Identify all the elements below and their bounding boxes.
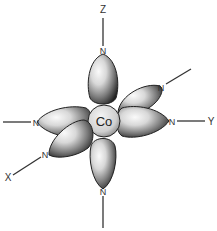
octahedral-complex-diagram: Z Y X N N N N N N Co (0, 0, 217, 231)
center-atom-label: Co (96, 114, 113, 129)
x-axis-line (13, 157, 41, 175)
lobe-right (117, 107, 169, 138)
upper-right-axis-line (166, 69, 191, 84)
ligand-n-bottom: N (100, 187, 107, 197)
lobe-top (88, 54, 118, 104)
ligand-n-lower-left: N (42, 150, 49, 160)
ligand-n-right: N (169, 117, 176, 127)
z-axis-label: Z (100, 4, 106, 15)
lobe-bottom (90, 139, 116, 190)
x-axis-label: X (5, 172, 12, 183)
y-axis-label: Y (208, 116, 215, 127)
ligand-n-left: N (33, 118, 40, 128)
ligand-n-upper-right: N (158, 83, 165, 93)
ligand-n-top: N (100, 46, 107, 56)
